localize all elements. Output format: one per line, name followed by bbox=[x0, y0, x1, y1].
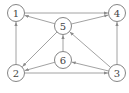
directed-graph: 145623 bbox=[0, 0, 129, 93]
node-label: 4 bbox=[114, 8, 120, 19]
node-5: 5 bbox=[55, 18, 72, 35]
edge-3-to-6 bbox=[72, 62, 109, 71]
node-label: 6 bbox=[60, 55, 66, 66]
edge-5-to-2 bbox=[22, 32, 57, 67]
node-4: 4 bbox=[109, 5, 126, 22]
edge-6-to-2 bbox=[25, 62, 55, 70]
node-label: 1 bbox=[13, 8, 19, 19]
node-2: 2 bbox=[8, 65, 25, 82]
node-6: 6 bbox=[55, 52, 72, 69]
nodes-layer: 145623 bbox=[8, 5, 126, 82]
node-label: 3 bbox=[114, 68, 120, 79]
node-1: 1 bbox=[8, 5, 25, 22]
node-label: 2 bbox=[13, 68, 19, 79]
edge-5-to-4 bbox=[71, 15, 108, 24]
edge-5-to-1 bbox=[25, 15, 55, 23]
edge-3-to-5 bbox=[70, 32, 111, 68]
node-3: 3 bbox=[109, 65, 126, 82]
node-label: 5 bbox=[60, 21, 66, 32]
